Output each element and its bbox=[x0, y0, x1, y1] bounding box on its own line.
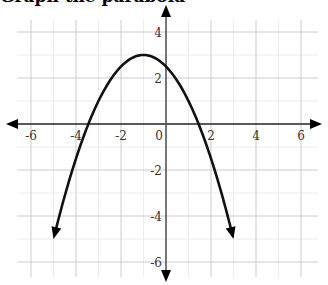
curve-left-arrow-icon bbox=[52, 226, 62, 239]
x-tick-label: -4 bbox=[70, 129, 82, 143]
x-tick-label: 6 bbox=[297, 129, 305, 143]
y-axis-up-arrow-icon bbox=[161, 5, 171, 17]
x-axis-right-arrow-icon bbox=[310, 119, 322, 129]
y-axis-down-arrow-icon bbox=[161, 270, 171, 282]
y-tick-label: -6 bbox=[150, 256, 162, 270]
x-tick-label: 0 bbox=[155, 129, 163, 143]
y-tick-label: -4 bbox=[150, 210, 162, 224]
x-tick-label: -6 bbox=[25, 129, 37, 143]
y-tick-label: -2 bbox=[150, 164, 162, 178]
x-tick-label: -2 bbox=[115, 129, 127, 143]
parabola-chart: -6-4-2024642-2-4-6 bbox=[0, 0, 328, 285]
tick-labels: -6-4-2024642-2-4-6 bbox=[25, 26, 305, 270]
minor-grid bbox=[17, 20, 318, 277]
x-axis-left-arrow-icon bbox=[6, 119, 18, 129]
x-tick-label: 4 bbox=[252, 129, 260, 143]
major-grid bbox=[17, 20, 318, 277]
y-tick-label: 2 bbox=[154, 72, 162, 86]
curve-right-arrow-icon bbox=[226, 226, 236, 239]
x-tick-label: 2 bbox=[207, 129, 215, 143]
y-tick-label: 4 bbox=[154, 26, 162, 40]
